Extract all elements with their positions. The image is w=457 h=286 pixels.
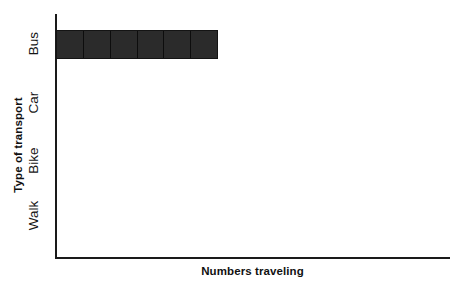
y-tick-label-car: Car (26, 71, 41, 135)
y-tick-label-bus: Bus (26, 12, 41, 76)
x-axis-title: Numbers traveling (55, 265, 450, 277)
bar-segment (138, 31, 165, 58)
bar-chart: Type of transport Numbers traveling Bus … (0, 0, 457, 286)
bar-segment (84, 31, 111, 58)
bar-segment (164, 31, 191, 58)
bar-segment (191, 31, 217, 58)
bar-bus (56, 30, 218, 59)
x-axis-line (55, 257, 450, 259)
y-tick-label-walk: Walk (26, 184, 41, 248)
y-axis-title: Type of transport (12, 75, 24, 215)
bar-segment (57, 31, 84, 58)
bar-segment (111, 31, 138, 58)
